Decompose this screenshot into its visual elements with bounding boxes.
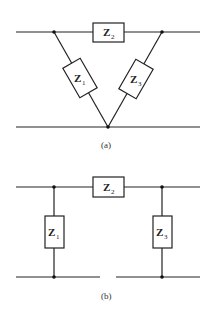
b-bottom-wire-gap bbox=[100, 274, 116, 280]
a-caption: (a) bbox=[101, 140, 111, 150]
b-impedance-z2: Z 2 bbox=[93, 177, 124, 197]
a-z3-symbol: Z bbox=[130, 73, 137, 85]
b-node-top-left bbox=[52, 185, 56, 189]
b-impedance-z1: Z 1 bbox=[45, 216, 64, 248]
a-node-top-left bbox=[52, 30, 56, 34]
diagram-b: Z 2 Z 1 Z 3 (b) bbox=[16, 177, 200, 301]
a-z1-symbol: Z bbox=[74, 72, 81, 84]
b-z2-subscript: 2 bbox=[111, 188, 115, 196]
a-impedance-z3: Z 3 bbox=[119, 59, 153, 98]
b-z1-subscript: 1 bbox=[56, 233, 60, 241]
a-z2-symbol: Z bbox=[103, 26, 110, 38]
b-z3-symbol: Z bbox=[156, 226, 163, 238]
a-node-bottom bbox=[106, 125, 110, 129]
a-z3-subscript: 3 bbox=[138, 80, 142, 88]
b-z1-symbol: Z bbox=[48, 226, 55, 238]
a-node-top-right bbox=[160, 30, 164, 34]
b-impedance-z3: Z 3 bbox=[153, 216, 172, 248]
b-node-top-right bbox=[160, 185, 164, 189]
b-node-bottom-right bbox=[160, 275, 164, 279]
b-node-bottom-left bbox=[52, 275, 56, 279]
diagram-a: Z 2 Z 1 Z 3 (a) bbox=[16, 23, 200, 150]
a-z2-subscript: 2 bbox=[111, 33, 115, 41]
b-caption: (b) bbox=[101, 291, 112, 301]
b-z2-symbol: Z bbox=[103, 181, 110, 193]
a-impedance-z2: Z 2 bbox=[93, 23, 124, 42]
a-impedance-z1: Z 1 bbox=[63, 58, 97, 97]
b-z3-subscript: 3 bbox=[164, 233, 168, 241]
circuit-diagrams: Z 2 Z 1 Z 3 (a) bbox=[0, 0, 213, 314]
a-z1-subscript: 1 bbox=[82, 79, 86, 87]
